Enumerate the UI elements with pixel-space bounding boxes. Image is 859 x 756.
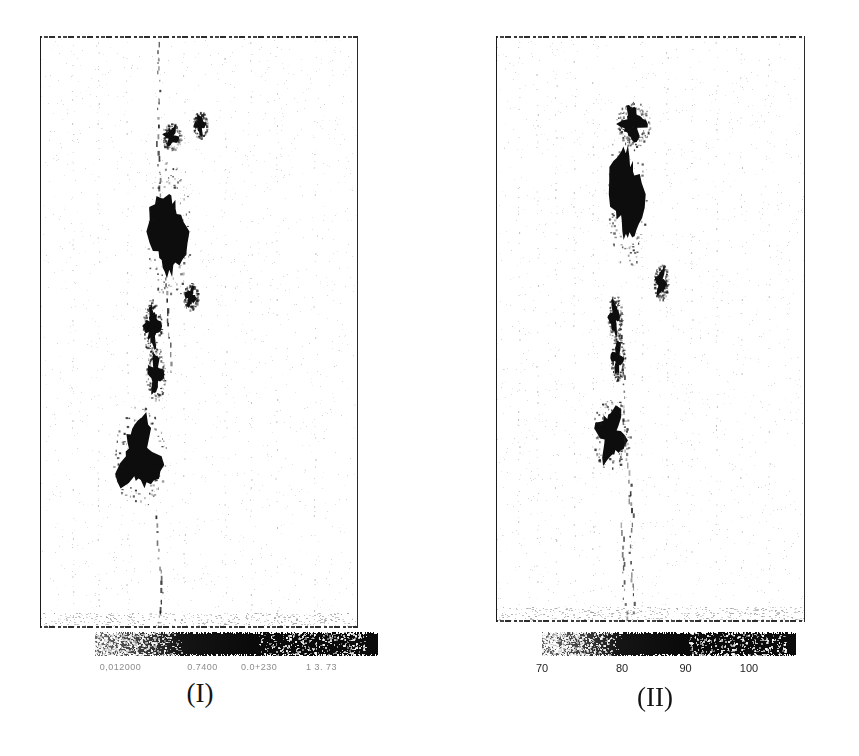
panel-2-plot-frame: [496, 36, 805, 622]
panel-2-heatmap-features: [497, 36, 804, 622]
panel-2-colorbar-grain: [542, 632, 796, 656]
colorbar-tick-label: 80: [616, 662, 628, 674]
colorbar-tick-label: 70: [536, 662, 548, 674]
panel-2-colorbar-tick-labels: 708090100: [542, 662, 796, 678]
panel-2-colorbar: 708090100: [542, 632, 796, 656]
colorbar-tick-label: 90: [679, 662, 691, 674]
panel-2: 708090100 (II): [0, 0, 859, 756]
feature-dotted-trace-spine: [619, 335, 636, 622]
colorbar-tick-label: 100: [740, 662, 758, 674]
panel-2-caption: (II): [637, 682, 673, 713]
feature-svg: [497, 36, 805, 622]
panel-2-colorbar-gradient: [542, 632, 796, 656]
scanned-figure: 0,0120000.74000.0+2301 3. 73 (I) 7080901…: [0, 0, 859, 756]
feature-dotted-trace-bottom: [621, 522, 638, 622]
